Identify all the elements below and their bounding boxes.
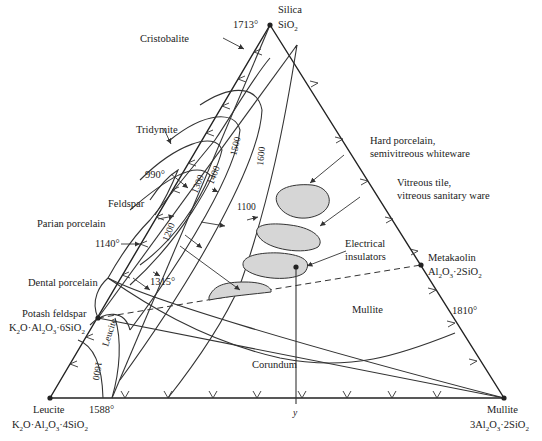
svg-text:1810°: 1810°: [452, 305, 477, 316]
product-regions: [209, 185, 329, 300]
svg-text:1140°: 1140°: [95, 238, 120, 249]
svg-text:Electrical: Electrical: [345, 238, 385, 249]
svg-text:1315°: 1315°: [150, 276, 175, 287]
svg-text:Leucite: Leucite: [100, 317, 118, 347]
svg-text:Feldspar: Feldspar: [108, 198, 145, 209]
svg-text:Corundum: Corundum: [252, 359, 297, 370]
svg-text:Silica: Silica: [278, 4, 302, 15]
triangle-frame: [50, 25, 504, 398]
svg-text:1600: 1600: [255, 146, 267, 166]
vertex-dots: [47, 22, 506, 400]
svg-text:Tridymite: Tridymite: [136, 124, 178, 135]
svg-text:vitreous sanitary ware: vitreous sanitary ware: [397, 190, 490, 201]
svg-text:1600: 1600: [91, 361, 104, 382]
svg-text:Mullite: Mullite: [352, 304, 383, 315]
svg-text:1300: 1300: [190, 173, 206, 195]
svg-text:1713°: 1713°: [233, 19, 258, 30]
svg-text:990°: 990°: [145, 169, 165, 180]
svg-text:Hard porcelain,: Hard porcelain,: [370, 135, 435, 146]
isotherms: [78, 45, 297, 398]
svg-text:3Al2O3·2SiO2: 3Al2O3·2SiO2: [470, 419, 529, 433]
hard-porcelain-region: [276, 185, 329, 218]
svg-text:Vitreous tile,: Vitreous tile,: [397, 177, 451, 188]
svg-text:SiO2: SiO2: [278, 19, 298, 33]
svg-text:K2O·Al2O3·6SiO2: K2O·Al2O3·6SiO2: [9, 322, 85, 336]
svg-text:Al2O3·2SiO2: Al2O3·2SiO2: [428, 266, 482, 280]
svg-text:Dental porcelain: Dental porcelain: [28, 277, 98, 288]
parian-porcelain-region: [209, 282, 271, 300]
svg-text:insulators: insulators: [345, 251, 386, 262]
svg-text:Leucite: Leucite: [33, 404, 65, 415]
ternary-diagram: y Silica SiO2 1713° Leucite K2O·Al2O3·4S…: [0, 0, 542, 441]
svg-text:1588°: 1588°: [89, 404, 114, 415]
svg-text:Mullite: Mullite: [487, 404, 518, 415]
svg-text:Metakaolin: Metakaolin: [428, 252, 477, 263]
vitreous-tile-region: [257, 224, 321, 251]
svg-text:1500: 1500: [228, 135, 242, 156]
svg-text:Parian porcelain: Parian porcelain: [37, 218, 106, 229]
svg-text:Potash feldspar: Potash feldspar: [22, 308, 87, 319]
svg-text:y: y: [292, 408, 298, 418]
svg-text:semivitreous whiteware: semivitreous whiteware: [370, 148, 470, 159]
isotherm-labels: 1100 1200 1300 1400 1500 1600 1600: [91, 135, 267, 381]
svg-text:1100: 1100: [237, 202, 256, 212]
svg-text:Cristobalite: Cristobalite: [140, 33, 189, 44]
svg-text:K2O·Al2O3·4SiO2: K2O·Al2O3·4SiO2: [12, 419, 88, 433]
